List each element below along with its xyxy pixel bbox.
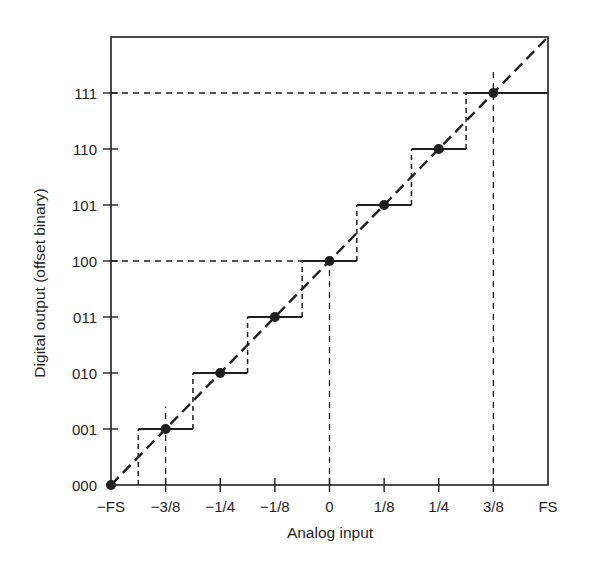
code-marker-000 xyxy=(106,480,116,490)
y-tick-label: 101 xyxy=(72,197,97,214)
code-marker-111 xyxy=(488,88,498,98)
y-axis-title: Digital output (offset binary) xyxy=(31,188,48,377)
y-tick-label: 001 xyxy=(72,421,97,438)
y-tick-label: 111 xyxy=(74,85,97,102)
adc-transfer-chart: −FS−3/8−1/4−1/801/81/43/8FS 000001010011… xyxy=(0,0,589,574)
y-tick-label: 100 xyxy=(72,253,97,270)
y-tick-label: 011 xyxy=(73,309,97,326)
code-marker-110 xyxy=(434,144,444,154)
code-marker-011 xyxy=(270,312,280,322)
y-tick-label: 010 xyxy=(72,365,97,382)
x-tick-label: 0 xyxy=(325,498,333,515)
y-tick-label: 000 xyxy=(72,477,97,494)
code-marker-010 xyxy=(215,368,225,378)
x-tick-label: −FS xyxy=(97,498,125,515)
x-tick-label: 1/8 xyxy=(374,498,395,515)
figure-caption-clipped xyxy=(0,566,589,574)
chart-canvas: −FS−3/8−1/4−1/801/81/43/8FS 000001010011… xyxy=(0,0,589,574)
x-tick-label: −1/8 xyxy=(260,498,290,515)
x-tick-label: −3/8 xyxy=(151,498,181,515)
code-marker-100 xyxy=(325,256,335,266)
x-tick-label: FS xyxy=(538,498,557,515)
code-marker-101 xyxy=(379,200,389,210)
x-tick-label: −1/4 xyxy=(205,498,235,515)
x-tick-label: 3/8 xyxy=(483,498,504,515)
x-axis-ticks: −FS−3/8−1/4−1/801/81/43/8FS xyxy=(97,478,558,515)
x-axis-title: Analog input xyxy=(287,524,374,541)
x-tick-label: 1/4 xyxy=(428,498,449,515)
code-marker-001 xyxy=(161,424,171,434)
y-tick-label: 110 xyxy=(73,141,97,158)
